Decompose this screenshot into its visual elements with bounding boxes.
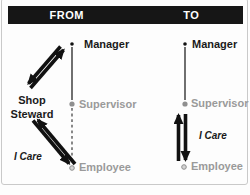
from-employee-bullet-icon	[70, 166, 75, 171]
to-manager-label: Manager	[192, 38, 237, 50]
from-employee-label: Employee	[79, 161, 131, 173]
from-steward-manager-arrows-icon	[29, 47, 64, 89]
to-care-label: I Care	[199, 130, 227, 142]
from-supervisor-label: Supervisor	[79, 98, 136, 110]
shop-steward-line2: Steward	[6, 107, 58, 121]
from-hierarchy	[69, 42, 74, 170]
to-supervisor-employee-arrows-icon	[179, 114, 186, 161]
to-supervisor-label: Supervisor	[191, 97, 248, 109]
from-care-label: I Care	[14, 151, 42, 163]
shop-steward-line1: Shop	[6, 93, 58, 107]
to-supervisor-bullet-icon	[182, 101, 187, 106]
to-manager-bullet-icon	[183, 42, 187, 46]
from-manager-label: Manager	[84, 38, 129, 50]
shop-steward-label: Shop Steward	[6, 93, 58, 121]
to-employee-label: Employee	[191, 160, 243, 172]
from-manager-bullet-icon	[70, 42, 74, 46]
to-employee-bullet-icon	[182, 165, 187, 170]
diagram-canvas: FROM TO	[0, 0, 250, 195]
from-supervisor-bullet-icon	[69, 101, 74, 106]
